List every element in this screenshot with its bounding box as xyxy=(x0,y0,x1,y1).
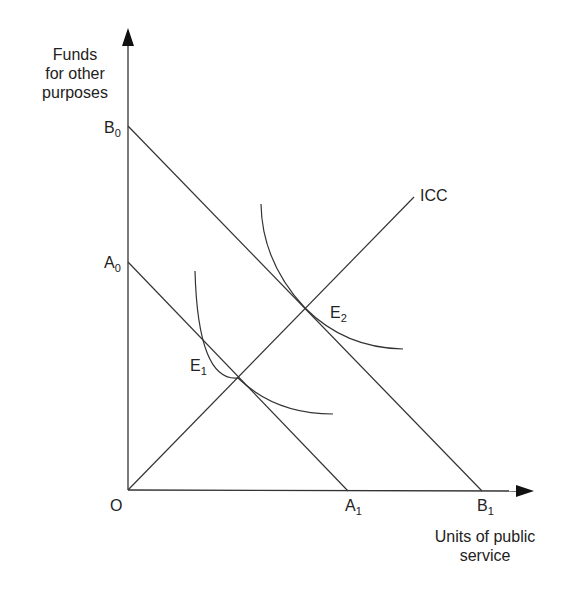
icc-label: ICC xyxy=(420,188,448,204)
y-axis-title-line-2: for other xyxy=(20,64,130,83)
x-axis-arrow-icon xyxy=(516,485,534,497)
x-axis-title-line-2: service xyxy=(415,546,555,565)
point-label-A1: A1 xyxy=(345,498,362,517)
point-label-A0: A0 xyxy=(104,255,121,274)
point-label-E2: E2 xyxy=(330,305,347,324)
x-axis-title-line-1: Units of public xyxy=(415,527,555,546)
x-axis-title: Units of public service xyxy=(415,527,555,565)
x-axis xyxy=(128,490,518,491)
income-consumption-curve xyxy=(128,197,414,490)
y-axis-title: Funds for other purposes xyxy=(20,45,130,102)
point-label-E1: E1 xyxy=(190,358,207,377)
point-label-B0: B0 xyxy=(104,120,121,139)
y-axis-title-line-1: Funds xyxy=(20,45,130,64)
indifference-curve-1 xyxy=(195,271,333,414)
origin-label: O xyxy=(110,498,122,514)
indifference-curve-2 xyxy=(261,204,403,349)
y-axis-arrow-icon xyxy=(122,28,134,46)
point-label-B1: B1 xyxy=(477,498,494,517)
y-axis-title-line-3: purposes xyxy=(20,83,130,102)
